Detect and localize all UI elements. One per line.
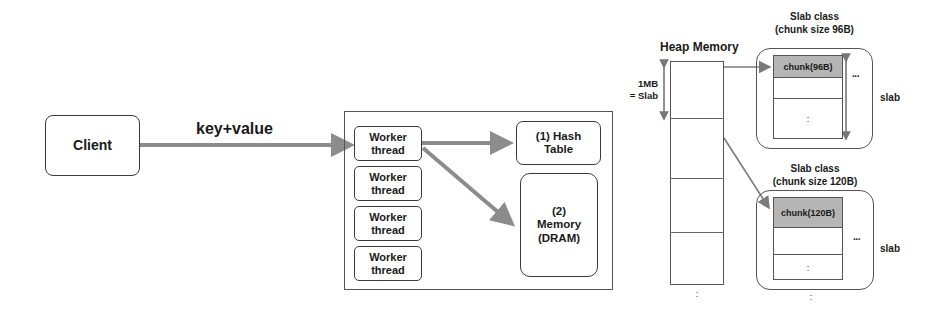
client-label: Client: [73, 137, 112, 153]
heap-slab-divider: [670, 178, 724, 179]
worker-thread-3: Workerthread: [354, 206, 422, 241]
chunk-more-rows: :: [774, 99, 842, 139]
worker-thread-1: Workerthread: [354, 126, 422, 161]
slab-size-line2: = Slab: [628, 90, 658, 102]
worker-label-line1: Worker: [369, 251, 407, 264]
memory-label-line3: (DRAM): [537, 232, 581, 245]
slab-96-more-ellipsis: ···: [852, 71, 859, 82]
heap-memory-title: Heap Memory: [660, 40, 739, 54]
worker-label-line2: thread: [369, 184, 407, 197]
memory-box: (2)Memory(DRAM): [520, 173, 598, 277]
slab-class-96-title: Slab class (chunk size 96B): [762, 11, 867, 36]
worker-label-line1: Worker: [369, 131, 407, 144]
heap-slab-divider: [670, 232, 724, 233]
slab-class-title-line1: Slab class: [762, 11, 867, 24]
worker-thread-2: Workerthread: [354, 166, 422, 201]
worker-label-line1: Worker: [369, 211, 407, 224]
chunk-empty-row: [774, 228, 842, 255]
worker-label-line2: thread: [369, 224, 407, 237]
slab-class-120-title: Slab class (chunk size 120B): [760, 163, 870, 188]
slab-size-line1: 1MB: [628, 78, 658, 90]
slab-120-label: slab: [880, 243, 900, 254]
client-box: Client: [45, 115, 140, 176]
slab-classes-continuation-dots: :: [806, 293, 816, 302]
slab-120-more-ellipsis: ···: [853, 234, 860, 245]
vertical-ellipsis: :: [803, 264, 813, 273]
slab-96-chunks: chunk(96B) :: [773, 55, 843, 139]
heap-memory-column: [670, 61, 724, 285]
chunk-120-row: chunk(120B): [774, 198, 842, 228]
worker-label-line1: Worker: [369, 171, 407, 184]
chunk-empty-row: [774, 78, 842, 99]
heap-slab-divider: [670, 118, 724, 119]
slab-class-title-line1: Slab class: [760, 163, 870, 176]
vertical-ellipsis: :: [803, 115, 813, 124]
slab-96-label: slab: [880, 92, 900, 103]
memory-label-line2: Memory: [537, 218, 581, 231]
worker-label-line2: thread: [369, 144, 407, 157]
slab-size-label: 1MB = Slab: [628, 78, 658, 102]
key-value-label: key+value: [196, 120, 273, 138]
worker-label-line2: thread: [369, 264, 407, 277]
heap-continuation-dots: :: [692, 290, 702, 299]
chunk-more-rows: :: [774, 255, 842, 281]
hash-label-line1: (1) Hash: [536, 130, 581, 143]
worker-thread-4: Workerthread: [354, 246, 422, 281]
chunk-96-row: chunk(96B): [774, 56, 842, 78]
slab-class-title-line2: (chunk size 120B): [760, 176, 870, 189]
memory-label-line1: (2): [537, 205, 581, 218]
slab-120-chunks: chunk(120B) :: [773, 197, 843, 280]
slab-class-title-line2: (chunk size 96B): [762, 24, 867, 37]
hash-label-line2: Table: [536, 143, 581, 156]
hash-table-box: (1) HashTable: [516, 121, 601, 165]
